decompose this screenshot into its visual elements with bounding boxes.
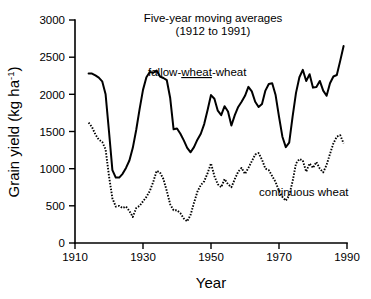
x-tick-label: 1950 — [198, 251, 224, 263]
x-axis-tick-labels: 1910 1930 1950 1970 1990 — [62, 251, 360, 263]
chart-figure: 0 500 1000 1500 2000 2500 3000 1910 1930… — [0, 0, 371, 299]
series-label-prefix: fallow- — [148, 66, 181, 78]
y-axis-ticks — [69, 20, 75, 243]
y-axis-tick-labels: 0 500 1000 1500 2000 2500 3000 — [39, 14, 65, 249]
y-tick-label: 1000 — [39, 163, 65, 175]
chart-title: Five-year moving averages — [144, 12, 283, 24]
y-tick-label: 500 — [46, 200, 65, 212]
x-axis-ticks — [75, 243, 347, 249]
series-label-fallow-wheat-wheat: fallow-wheat-wheat — [148, 66, 247, 78]
x-tick-label: 1990 — [334, 251, 360, 263]
y-axis-title-close: ) — [5, 66, 22, 71]
chart-subtitle: (1912 to 1991) — [176, 25, 251, 37]
x-tick-label: 1930 — [130, 251, 156, 263]
x-tick-label: 1970 — [266, 251, 292, 263]
x-tick-label: 1910 — [62, 251, 88, 263]
series-line-continuous-wheat — [89, 123, 344, 222]
y-tick-label: 2500 — [39, 51, 65, 63]
y-tick-label: 2000 — [39, 89, 65, 101]
grain-yield-line-chart: 0 500 1000 1500 2000 2500 3000 1910 1930… — [0, 0, 371, 299]
series-label-underlined: wheat — [180, 66, 212, 78]
y-tick-label: 0 — [59, 237, 65, 249]
x-axis-title: Year — [196, 274, 226, 291]
y-tick-label: 1500 — [39, 126, 65, 138]
y-axis-title-superscript: -1 — [5, 71, 16, 79]
series-label-continuous-wheat: continuous wheat — [259, 186, 349, 198]
y-axis-title-main: Grain yield (kg ha — [5, 79, 22, 197]
series-label-suffix: -wheat — [212, 66, 247, 78]
y-tick-label: 3000 — [39, 14, 65, 26]
y-axis-title: Grain yield (kg ha-1) — [5, 66, 22, 197]
